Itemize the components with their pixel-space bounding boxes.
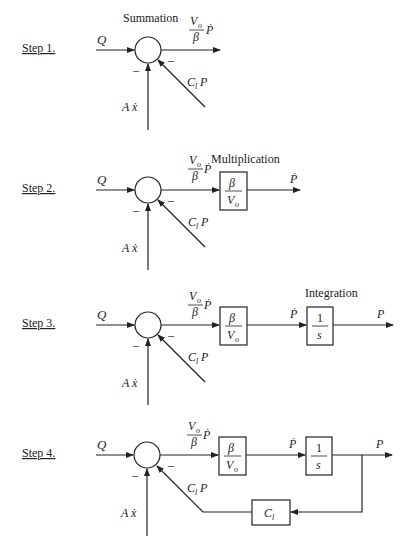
minus-sign: –	[167, 328, 175, 342]
svg-text:o: o	[196, 426, 200, 435]
block-numerator: β	[227, 441, 234, 455]
minus-sign: –	[131, 468, 139, 482]
output-label: Ṗ	[289, 172, 298, 186]
feedback-label: C l P	[188, 350, 209, 366]
step-3: Step 3. Q V o β Ṗ β V o Ṗ Integration 1 …	[22, 286, 393, 405]
summation-junction	[134, 442, 160, 468]
svg-text:l: l	[196, 222, 199, 231]
input-label: Q	[97, 437, 107, 452]
mid-label: Ṗ	[288, 437, 297, 451]
step-label: Step 1.	[22, 41, 55, 55]
sum-expression: V o β Ṗ	[187, 419, 211, 449]
summation-junction	[135, 177, 161, 203]
svg-text:Ṗ: Ṗ	[202, 428, 211, 442]
output-expression: V o β Ṗ	[189, 14, 214, 44]
svg-text:o: o	[198, 21, 202, 30]
feedback-label: C l P	[188, 215, 209, 231]
disturbance-label: A ẋ	[121, 100, 138, 114]
input-label: Q	[97, 172, 107, 187]
minus-sign: –	[167, 458, 175, 472]
svg-text:o: o	[197, 296, 201, 305]
step-label: Step 2.	[22, 181, 55, 195]
mid-label: Ṗ	[289, 307, 298, 321]
svg-text:P: P	[200, 215, 209, 229]
svg-text:Ṗ: Ṗ	[203, 298, 212, 312]
block-numerator: β	[228, 176, 235, 190]
svg-text:o: o	[235, 335, 239, 344]
disturbance-label: A ẋ	[120, 506, 137, 520]
step-1: Step 1. Q Summation V o β Ṗ A ẋ – – C l …	[22, 11, 220, 130]
int-numerator: 1	[317, 311, 323, 325]
feedback-label: C l P	[187, 481, 208, 497]
svg-text:Ṗ: Ṗ	[205, 23, 214, 37]
feedback-label: C l P	[187, 75, 208, 91]
block-diagram: Step 1. Q Summation V o β Ṗ A ẋ – – C l …	[0, 0, 415, 550]
svg-text:β: β	[192, 30, 199, 44]
summation-junction	[135, 312, 161, 338]
int-numerator: 1	[316, 441, 322, 455]
disturbance-label: A ẋ	[121, 376, 138, 390]
minus-sign: –	[132, 203, 140, 217]
svg-text:P: P	[199, 481, 208, 495]
svg-text:l: l	[195, 82, 198, 91]
svg-text:P: P	[200, 350, 209, 364]
minus-sign: –	[132, 338, 140, 352]
minus-sign: –	[132, 63, 140, 77]
annotation: Summation	[123, 11, 178, 25]
block-numerator: β	[228, 311, 235, 325]
output-label: P	[375, 437, 384, 451]
svg-text:o: o	[197, 160, 201, 169]
input-label: Q	[97, 307, 107, 322]
summation-junction	[135, 37, 161, 63]
svg-text:β: β	[191, 169, 198, 183]
svg-text:o: o	[234, 465, 238, 474]
int-denominator: s	[317, 328, 322, 342]
svg-text:β: β	[191, 305, 198, 319]
step-4: Step 4. Q V o β Ṗ β V o Ṗ 1 s P C l – C	[22, 419, 392, 536]
svg-text:l: l	[195, 488, 198, 497]
step-label: Step 4.	[22, 446, 55, 460]
step-2: Step 2. Q V o β Ṗ Multiplication β V o Ṗ…	[22, 152, 300, 270]
svg-text:o: o	[235, 200, 239, 209]
annotation: Multiplication	[211, 152, 280, 166]
minus-sign: –	[167, 53, 175, 67]
output-label: P	[376, 307, 385, 321]
input-label: Q	[97, 32, 107, 47]
step-label: Step 3.	[22, 316, 55, 330]
annotation: Integration	[305, 286, 358, 300]
sum-expression: V o β Ṗ	[188, 289, 212, 319]
int-denominator: s	[316, 458, 321, 472]
svg-text:l: l	[196, 357, 199, 366]
minus-sign: –	[167, 193, 175, 207]
sum-expression: V o β Ṗ	[188, 153, 212, 183]
svg-text:P: P	[199, 75, 208, 89]
svg-text:β: β	[190, 435, 197, 449]
feedback-arrow	[158, 60, 205, 107]
disturbance-label: A ẋ	[121, 241, 138, 255]
